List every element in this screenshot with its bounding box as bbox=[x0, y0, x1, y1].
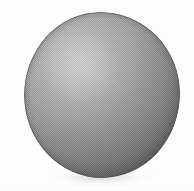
sphere-rim-outline bbox=[24, 12, 180, 178]
sphere-object bbox=[24, 12, 180, 178]
scanned-figure bbox=[0, 0, 194, 191]
